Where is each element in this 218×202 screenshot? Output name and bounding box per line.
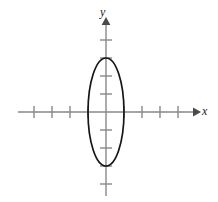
x-axis-arrowhead — [193, 108, 201, 117]
coordinate-plane-svg — [0, 0, 218, 202]
x-axis-label: x — [202, 105, 207, 117]
ellipse-graph-figure: y x — [0, 0, 218, 202]
y-axis-label: y — [100, 6, 105, 18]
